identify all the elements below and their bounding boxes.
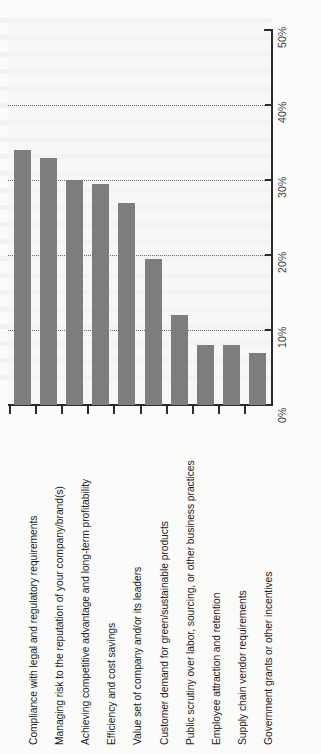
category-label: Efficiency and cost savings xyxy=(106,623,117,745)
category-label: Customer demand for green/sustainable pr… xyxy=(159,521,170,745)
category-tick xyxy=(35,406,37,414)
category-tick xyxy=(113,406,115,414)
bar xyxy=(145,259,162,405)
category-tick xyxy=(166,406,168,414)
value-tick xyxy=(265,404,272,406)
bar-chart: 0%10%20%30%40%50% Compliance with legal … xyxy=(0,0,321,754)
value-tick xyxy=(265,179,272,181)
value-axis-tick-label: 30% xyxy=(276,176,288,198)
category-label: Compliance with legal and regulatory req… xyxy=(28,516,39,745)
category-tick xyxy=(140,406,142,414)
category-tick xyxy=(244,406,246,414)
value-tick xyxy=(265,329,272,331)
value-axis-tick-label: 40% xyxy=(276,101,288,123)
bar xyxy=(249,353,266,406)
category-tick xyxy=(9,406,11,414)
bar xyxy=(171,315,188,405)
category-label: Public scrutiny over labor, sourcing, or… xyxy=(185,460,196,745)
bar xyxy=(197,345,214,405)
value-axis-line xyxy=(271,29,273,406)
value-tick xyxy=(265,29,272,31)
bar xyxy=(40,158,57,406)
category-label: Managing risk to the reputation of your … xyxy=(54,486,65,745)
gridline xyxy=(8,105,271,106)
bar xyxy=(118,203,135,406)
value-axis-tick-label: 50% xyxy=(276,26,288,48)
value-axis-tick-label: 0% xyxy=(276,407,288,423)
category-label: Achieving competitive advantage and long… xyxy=(80,479,91,745)
category-label: Value set of company and/or its leaders xyxy=(132,567,143,745)
bar xyxy=(66,180,83,405)
value-tick xyxy=(265,104,272,106)
bar xyxy=(223,345,240,405)
category-tick xyxy=(192,406,194,414)
value-tick xyxy=(265,254,272,256)
category-label: Government grants or other incentives xyxy=(263,572,274,745)
category-tick xyxy=(218,406,220,414)
value-axis-tick-label: 10% xyxy=(276,326,288,348)
category-tick xyxy=(61,406,63,414)
category-label: Supply chain vendor requirements xyxy=(237,590,248,745)
category-label: Employee attraction and retention xyxy=(211,593,222,745)
value-axis-tick-label: 20% xyxy=(276,251,288,273)
bar xyxy=(92,184,109,405)
category-tick xyxy=(87,406,89,414)
bar xyxy=(14,150,31,405)
